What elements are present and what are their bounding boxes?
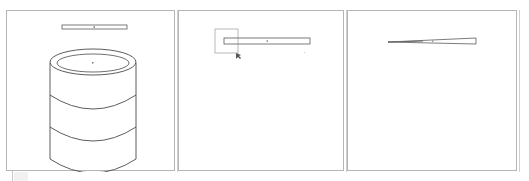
viewport-top[interactable]	[178, 10, 344, 171]
pivot-dot-icon	[94, 26, 96, 28]
pivot-dot-icon	[432, 41, 433, 42]
side-canvas[interactable]	[348, 11, 518, 172]
cylinder-band-1	[50, 95, 136, 109]
pivot-dot-icon	[267, 40, 269, 42]
viewport-side[interactable]	[347, 10, 517, 171]
resize-cursor-icon	[236, 53, 241, 59]
cylinder-band-2	[50, 127, 136, 141]
cylinder-bottom	[50, 159, 136, 172]
top-canvas[interactable]	[179, 11, 345, 172]
cylinder-center-dot-icon	[92, 62, 94, 64]
perspective-canvas[interactable]	[7, 11, 176, 172]
tapered-bar-edge	[388, 41, 423, 42]
selection-box[interactable]	[215, 29, 238, 53]
status-corner-box	[14, 172, 28, 181]
corner-marker	[12, 171, 13, 181]
viewport-perspective[interactable]	[6, 10, 175, 171]
grid-dot	[304, 52, 305, 53]
